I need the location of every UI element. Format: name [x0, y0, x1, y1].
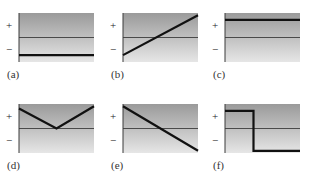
plus-label: +: [212, 111, 218, 122]
plot-area: [104, 91, 204, 161]
plot-panel-d: +−(d): [0, 91, 100, 179]
minus-label: −: [212, 135, 218, 146]
panel-caption: (c): [213, 69, 225, 80]
plus-label: +: [6, 20, 12, 31]
plus-label: +: [212, 20, 218, 31]
plot-panel-c: +−(c): [206, 0, 306, 88]
panel-caption: (e): [111, 160, 123, 171]
plus-label: +: [110, 20, 116, 31]
panel-caption: (a): [7, 69, 19, 80]
plus-label: +: [110, 111, 116, 122]
plot-area: [0, 0, 100, 70]
panel-caption: (b): [111, 69, 124, 80]
plot-area: [104, 0, 204, 70]
minus-label: −: [6, 135, 12, 146]
panel-caption: (d): [7, 160, 20, 171]
minus-label: −: [110, 135, 116, 146]
plot-panel-f: +−(f): [206, 91, 306, 179]
plot-panel-a: +−(a): [0, 0, 100, 88]
minus-label: −: [110, 44, 116, 55]
panel-caption: (f): [213, 160, 224, 171]
plot-area: [206, 91, 306, 161]
plot-area: [206, 0, 306, 70]
minus-label: −: [212, 44, 218, 55]
plot-panel-e: +−(e): [104, 91, 204, 179]
plot-area: [0, 91, 100, 161]
plus-label: +: [6, 111, 12, 122]
minus-label: −: [6, 44, 12, 55]
plot-panel-b: +−(b): [104, 0, 204, 88]
